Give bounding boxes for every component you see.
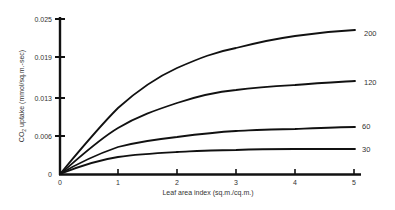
y-tick-label: 0.019 (34, 54, 52, 61)
chart: 0.025 0.019 0.013 0.006 0 0 1 2 3 4 5 Le… (0, 0, 395, 210)
series-lines (60, 30, 355, 174)
x-tick-label: 1 (116, 179, 120, 186)
y-tick-label: 0 (48, 171, 52, 178)
y-axis-label: CO2 uptake (mmol/sq.m.-sec) (18, 50, 27, 142)
y-tick-label: 0.006 (34, 133, 52, 140)
y-tick-labels: 0.025 0.019 0.013 0.006 0 (34, 16, 52, 178)
series-label-120: 120 (364, 78, 377, 87)
series-labels: 200 120 60 30 (362, 29, 377, 154)
y-tick-label: 0.013 (34, 95, 52, 102)
x-tick-label: 4 (293, 179, 297, 186)
x-tick-label: 5 (352, 179, 356, 186)
series-label-30: 30 (362, 145, 370, 154)
x-tick-label: 2 (175, 179, 179, 186)
x-tick-label: 0 (58, 179, 62, 186)
series-label-60: 60 (362, 122, 370, 131)
series-label-200: 200 (364, 29, 377, 38)
chart-svg: 0.025 0.019 0.013 0.006 0 0 1 2 3 4 5 Le… (0, 0, 395, 210)
x-tick-labels: 0 1 2 3 4 5 (58, 179, 356, 186)
y-tick-label: 0.025 (34, 16, 52, 23)
x-axis-label: Leaf area index (sq.m./cq.m.) (162, 189, 253, 197)
x-tick-label: 3 (234, 179, 238, 186)
